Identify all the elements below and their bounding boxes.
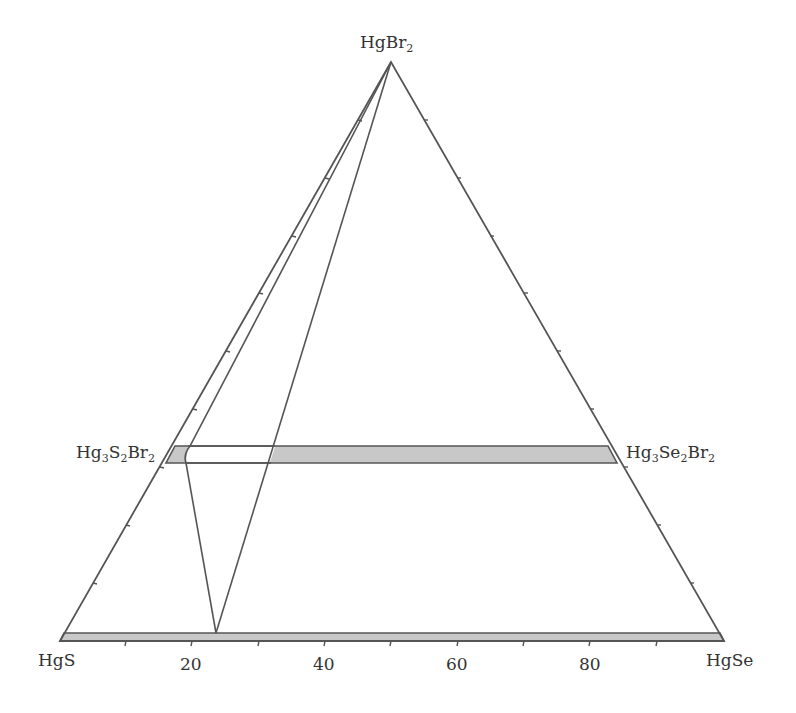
tick-label-60: 60: [446, 656, 468, 673]
tick-label-40: 40: [313, 656, 335, 673]
label-hgse: HgSe: [706, 652, 753, 669]
tick-label-80: 80: [579, 656, 601, 673]
ternary-diagram: [0, 0, 796, 713]
tick-label-20: 20: [180, 656, 202, 673]
triangle-outline: [60, 62, 724, 641]
label-hgs: HgS: [38, 652, 75, 669]
label-hgbr2: HgBr2HgBr2: [360, 34, 413, 51]
band-hgs-hgse: [60, 633, 724, 641]
tie-line-band-to-bottom: [186, 463, 216, 633]
band-gap-region: [186, 447, 275, 462]
label-hg3se2br2: Hg3Se2Br2Hg3Se2Br2: [626, 444, 715, 461]
label-hg3s2br2: Hg3S2Br2Hg3S2Br2: [76, 444, 155, 461]
tie-line-apex-to-hg3s2br2: [185, 62, 391, 463]
